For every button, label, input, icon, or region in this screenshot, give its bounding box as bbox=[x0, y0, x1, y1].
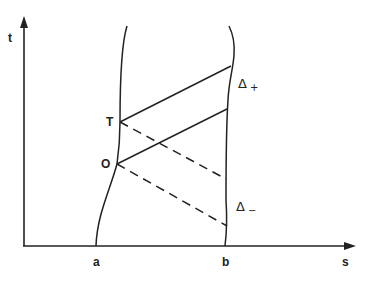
s-axis-label: s bbox=[342, 256, 349, 268]
diagram-canvas: t s T O a b Δ+ Δ− bbox=[0, 0, 369, 284]
delta-minus-label: Δ− bbox=[236, 200, 256, 213]
dashed-line-from-O bbox=[117, 164, 227, 226]
delta-plus-sub: + bbox=[250, 82, 258, 93]
delta-symbol: Δ bbox=[236, 199, 245, 214]
boundary-a-label: a bbox=[93, 256, 100, 268]
solid-line-from-O bbox=[117, 109, 227, 164]
solid-line-from-T bbox=[120, 66, 231, 122]
point-O-label: O bbox=[101, 158, 110, 170]
dashed-line-from-T bbox=[120, 122, 226, 179]
point-T-label: T bbox=[106, 116, 113, 128]
boundary-b-label: b bbox=[222, 256, 229, 268]
right-boundary-curve bbox=[225, 26, 234, 246]
delta-minus-sub: − bbox=[248, 205, 256, 216]
delta-symbol: Δ bbox=[238, 76, 247, 91]
diagram-svg bbox=[0, 0, 369, 284]
delta-plus-label: Δ+ bbox=[238, 77, 258, 90]
t-axis-label: t bbox=[8, 32, 12, 44]
s-axis-arrowhead-icon bbox=[344, 242, 356, 250]
left-boundary-curve bbox=[96, 26, 127, 246]
t-axis-arrowhead-icon bbox=[20, 16, 28, 28]
